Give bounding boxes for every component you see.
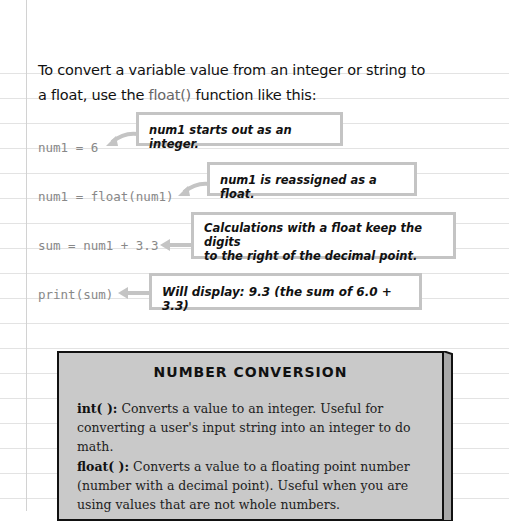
code-line-2: num1 = float(num1) — [38, 189, 173, 204]
float-function-inline: float() — [149, 87, 192, 103]
box-title: NUMBER CONVERSION — [57, 364, 444, 380]
intro-line-2: a float, use the float() function like t… — [38, 83, 478, 108]
callout-note-1: num1 starts out as an integer. — [136, 112, 343, 146]
int-term: int( ): — [77, 401, 117, 416]
callout-note-2: num1 is reassigned as a float. — [207, 162, 417, 196]
intro-line-1: To convert a variable value from an inte… — [38, 58, 478, 83]
intro-paragraph: To convert a variable value from an inte… — [38, 58, 478, 108]
arrow-icon — [104, 128, 140, 150]
code-line-1: num1 = 6 — [38, 140, 98, 155]
float-term: float( ): — [77, 459, 129, 474]
code-line-3: sum = num1 + 3.3 — [38, 238, 158, 253]
int-definition: int( ): Converts a value to an integer. … — [77, 399, 432, 456]
code-line-4: print(sum) — [38, 287, 113, 302]
margin-line — [26, 0, 27, 511]
paper-top-blank — [0, 0, 509, 60]
callout-note-3: Calculations with a float keep the digit… — [191, 212, 456, 259]
callout-note-4: Will display: 9.3 (the sum of 6.0 + 3.3) — [149, 273, 422, 310]
float-definition: float( ): Converts a value to a floating… — [77, 457, 432, 514]
box-3d-side — [443, 351, 454, 521]
